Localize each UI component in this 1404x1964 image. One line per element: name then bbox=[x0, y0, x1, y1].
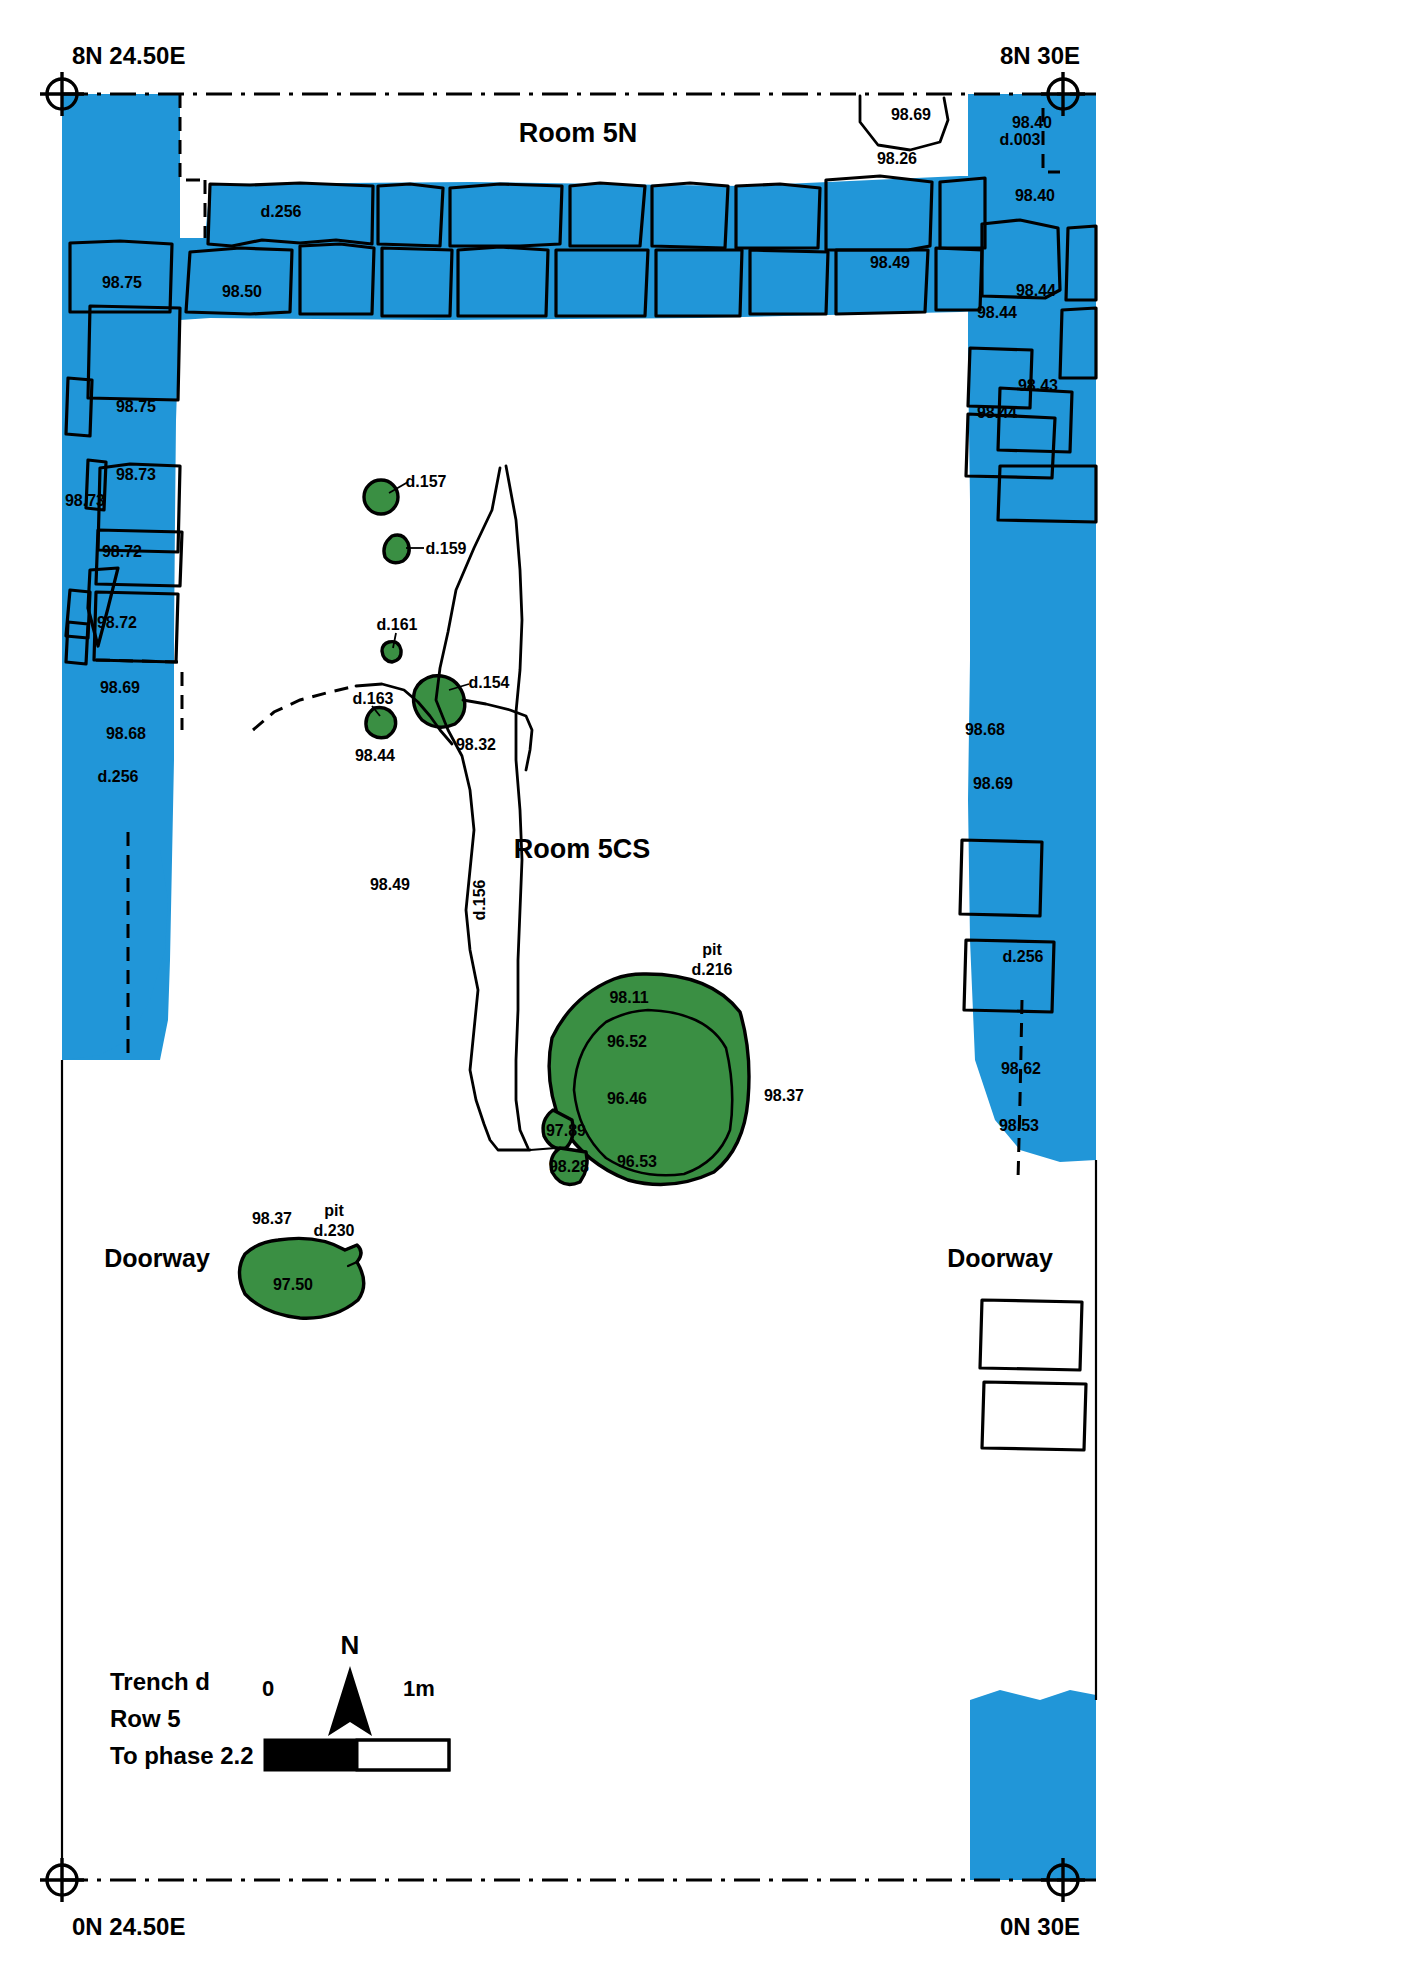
feature-d157 bbox=[364, 480, 398, 514]
elevation-spot: 98.49 bbox=[370, 876, 410, 893]
elevation-spot: 98.75 bbox=[116, 398, 156, 415]
elevation-spot: 98.72 bbox=[97, 614, 137, 631]
context-label: d.156 bbox=[471, 879, 488, 920]
context-label: d.256 bbox=[261, 203, 302, 220]
elevation-spot: 98.72 bbox=[102, 543, 142, 560]
elevation-spot: 98.37 bbox=[764, 1087, 804, 1104]
elevation-spot: 98.68 bbox=[106, 725, 146, 742]
elevation-spot: 98.11 bbox=[609, 989, 648, 1006]
elevation-spot: 98.44 bbox=[977, 304, 1017, 321]
elevation-spot: 98.53 bbox=[999, 1117, 1039, 1134]
site-plan-drawing: 8N 24.50E 8N 30E 0N 24.50E 0N 30E Room 5… bbox=[0, 0, 1404, 1964]
elevation-spot: 96.52 bbox=[607, 1033, 647, 1050]
context-label: d.256 bbox=[98, 768, 139, 785]
scale-bar-empty bbox=[357, 1740, 449, 1770]
pit-number-label: d.230 bbox=[314, 1222, 355, 1239]
grid-label-top-right: 8N 30E bbox=[1000, 42, 1080, 69]
room-label-5cs: Room 5CS bbox=[514, 834, 651, 864]
elevation-spot: 98.69 bbox=[891, 106, 931, 123]
feature-d163 bbox=[366, 707, 396, 737]
context-label: d.161 bbox=[377, 616, 418, 633]
grid-label-bottom-left: 0N 24.50E bbox=[72, 1913, 185, 1940]
elevation-spot: 98.44 bbox=[1016, 282, 1056, 299]
elevation-spot: 98.44 bbox=[977, 404, 1017, 421]
feature-d161 bbox=[382, 642, 401, 662]
title-phase: To phase 2.2 bbox=[110, 1742, 254, 1769]
elevation-spot: 98.68 bbox=[965, 721, 1005, 738]
doorway-label-west: Doorway bbox=[104, 1244, 210, 1272]
feature-d159 bbox=[384, 535, 409, 563]
context-label: d.157 bbox=[406, 473, 447, 490]
context-label: d.154 bbox=[469, 674, 510, 691]
elevation-spot: 98.26 bbox=[877, 150, 917, 167]
wall-east-south-stub bbox=[970, 1690, 1096, 1880]
scale-label-zero: 0 bbox=[262, 1676, 274, 1701]
feature-pit-d216-inner bbox=[574, 1010, 732, 1175]
elevation-spot: 98.43 bbox=[1018, 377, 1058, 394]
elevation-spot: 98.69 bbox=[100, 679, 140, 696]
scale-label-max: 1m bbox=[403, 1676, 435, 1701]
elevation-spot: 98.69 bbox=[973, 775, 1013, 792]
pit-kind-label: pit bbox=[702, 941, 722, 958]
elevation-spot: 98.73 bbox=[65, 492, 105, 509]
elevation-spot: 98.37 bbox=[252, 1210, 292, 1227]
elevation-spot: 98.62 bbox=[1001, 1060, 1041, 1077]
elevation-spot: 98.40 bbox=[1015, 187, 1055, 204]
grid-label-top-left: 8N 24.50E bbox=[72, 42, 185, 69]
pit-number-label: d.216 bbox=[692, 961, 733, 978]
title-trench: Trench d bbox=[110, 1668, 210, 1695]
elevation-spot: 96.46 bbox=[607, 1090, 647, 1107]
context-label: d.003 bbox=[1000, 131, 1041, 148]
elevation-spot: 98.44 bbox=[355, 747, 395, 764]
elevation-spot: 98.40 bbox=[1012, 114, 1052, 131]
elevation-spot: 98.32 bbox=[456, 736, 496, 753]
wall-east bbox=[968, 94, 1096, 1162]
context-label: d.163 bbox=[353, 690, 394, 707]
elevation-spot: 97.50 bbox=[273, 1276, 313, 1293]
elevation-spot: 97.89 bbox=[546, 1122, 586, 1139]
pit-kind-label: pit bbox=[324, 1202, 344, 1219]
grid-label-bottom-right: 0N 30E bbox=[1000, 1913, 1080, 1940]
elevation-spot: 98.28 bbox=[549, 1158, 589, 1175]
doorway-label-east: Doorway bbox=[947, 1244, 1053, 1272]
elevation-spot: 98.49 bbox=[870, 254, 910, 271]
context-label: d.256 bbox=[1003, 948, 1044, 965]
elevation-spot: 98.75 bbox=[102, 274, 142, 291]
elevation-spot: 96.53 bbox=[617, 1153, 657, 1170]
title-row: Row 5 bbox=[110, 1705, 181, 1732]
scale-bar-filled bbox=[265, 1740, 357, 1770]
elevation-spot: 98.73 bbox=[116, 466, 156, 483]
north-arrow-letter: N bbox=[341, 1630, 360, 1660]
room-label-5n: Room 5N bbox=[519, 118, 638, 148]
elevation-spot: 98.50 bbox=[222, 283, 262, 300]
context-label: d.159 bbox=[426, 540, 467, 557]
